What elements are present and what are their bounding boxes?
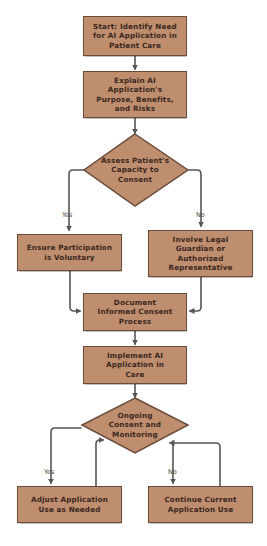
- node-start-label: Start: Identify Need for AI Application …: [88, 22, 182, 51]
- node-document-label: Document Informed Consent Process: [88, 298, 182, 327]
- node-assess: Assess Patient's Capacity to Consent: [100, 148, 170, 192]
- node-voluntary-label: Ensure Participation is Voluntary: [22, 243, 117, 262]
- connector-adjust-ongoing: [96, 440, 103, 486]
- node-implement-label: Implement AI Application in Care: [88, 351, 182, 380]
- connector-voluntary-document: [70, 271, 80, 311]
- connector-continue-ongoing: [170, 443, 220, 486]
- flowchart-canvas: Start: Identify Need for AI Application …: [0, 0, 267, 546]
- node-explain-label: Explain AI Application's Purpose, Benefi…: [88, 76, 182, 114]
- connector-assess-yes: [69, 170, 85, 230]
- edge-label-assess-no: No: [196, 211, 205, 219]
- connector-guardian-document: [190, 277, 201, 311]
- node-ongoing: Ongoing Consent and Monitoring: [102, 406, 168, 444]
- node-adjust: Adjust Application Use as Needed: [17, 486, 122, 523]
- node-continue-label: Continue Current Application Use: [153, 495, 248, 514]
- node-guardian: Involve Legal Guardian or Authorized Rep…: [148, 230, 253, 277]
- edge-label-ongoing-yes: Yes: [44, 468, 55, 476]
- node-explain: Explain AI Application's Purpose, Benefi…: [83, 71, 187, 118]
- node-document: Document Informed Consent Process: [83, 293, 187, 331]
- node-adjust-label: Adjust Application Use as Needed: [22, 495, 117, 514]
- node-ongoing-label: Ongoing Consent and Monitoring: [102, 411, 168, 440]
- node-implement: Implement AI Application in Care: [83, 346, 187, 384]
- node-start: Start: Identify Need for AI Application …: [83, 16, 187, 56]
- edge-label-ongoing-no: No: [168, 468, 177, 476]
- edge-label-assess-yes: Yes: [62, 211, 73, 219]
- node-guardian-label: Involve Legal Guardian or Authorized Rep…: [153, 235, 248, 273]
- node-voluntary: Ensure Participation is Voluntary: [17, 234, 122, 271]
- node-continue: Continue Current Application Use: [148, 486, 253, 523]
- connector-ongoing-yes: [51, 428, 81, 483]
- node-assess-label: Assess Patient's Capacity to Consent: [100, 156, 170, 185]
